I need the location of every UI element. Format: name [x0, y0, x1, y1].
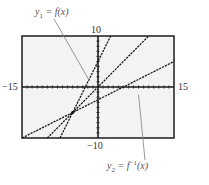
graph-window [0, 0, 209, 185]
y2-superscript: −1 [129, 159, 136, 167]
x-max-tick-label: 15 [178, 82, 188, 92]
y2-equation-label: y2 = f−1(x) [107, 160, 148, 174]
y2-tail: (x) [137, 160, 148, 171]
y-max-tick-label: 10 [91, 25, 101, 35]
y2-rest: = f [115, 160, 130, 171]
y1-equation-label: y1 = f(x) [35, 7, 69, 20]
intersection-point [71, 111, 74, 114]
y1-rest: = f(x) [43, 6, 69, 17]
x-min-tick-label: −15 [2, 82, 18, 92]
y-min-tick-label: −10 [87, 141, 103, 151]
